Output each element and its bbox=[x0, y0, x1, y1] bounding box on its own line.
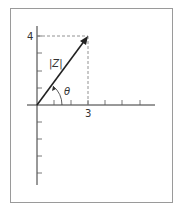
vector-label: |Z| bbox=[49, 58, 63, 70]
vector-diagram: 4 3 |Z| θ bbox=[0, 0, 180, 212]
y-tick-label: 4 bbox=[27, 31, 33, 42]
x-tick-label: 3 bbox=[85, 108, 91, 119]
arrowhead-icon bbox=[80, 36, 88, 45]
angle-label: θ bbox=[64, 86, 70, 97]
vector-z bbox=[37, 40, 85, 105]
x-ticks bbox=[54, 100, 140, 105]
